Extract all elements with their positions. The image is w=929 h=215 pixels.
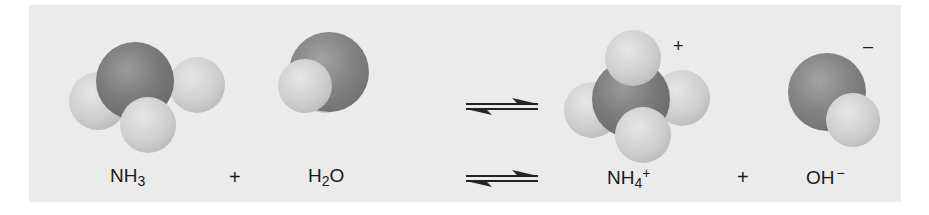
water-label: H2O [308,165,344,189]
ammonium-charge: + [673,36,684,57]
plus-sign: + [737,166,749,189]
ammonium-label: NH4+ [607,165,650,191]
hydrogen-atom [826,93,880,147]
formula-base: NH [110,165,137,186]
hydrogen-atom [605,30,661,86]
hydroxide-label: OH− [806,165,845,189]
equilibrium-arrow-icon [466,169,540,189]
hydrogen-atom [615,107,671,163]
formula-superscript: + [642,165,650,181]
diagram-panel: NH3 + H2O + NH4+ + – OH− [29,5,901,202]
plus-sign: + [229,166,241,189]
formula-tail: O [330,165,345,186]
formula-superscript: − [837,165,845,181]
ammonia-label: NH3 [110,165,145,189]
formula-base: NH [607,167,634,188]
formula-base: H [308,165,322,186]
hydrogen-atom [169,57,225,113]
equilibrium-arrow-icon [466,97,540,117]
hydroxide-charge: – [863,36,873,57]
formula-subscript: 3 [137,173,145,189]
formula-base: OH [806,167,835,188]
hydrogen-atom [278,59,332,113]
formula-subscript: 2 [322,173,330,189]
hydrogen-atom [120,97,176,153]
